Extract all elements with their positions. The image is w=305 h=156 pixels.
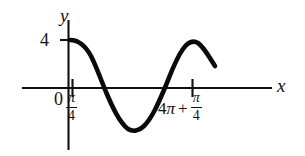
- x-axis-label: x: [277, 76, 285, 95]
- coefficient-4: 4: [158, 100, 167, 117]
- x-tick-label-4pi-plus-pi-over-4: 4π+ π 4: [158, 92, 202, 124]
- fraction-numerator: π: [191, 91, 202, 106]
- plus-operator: +: [175, 100, 191, 117]
- figure-canvas: [0, 0, 305, 156]
- fraction-numerator: π: [66, 91, 77, 106]
- pi-symbol: π: [167, 100, 176, 117]
- y-axis-label: y: [60, 6, 68, 25]
- y-tick-label-4: 4: [40, 31, 49, 49]
- origin-label: 0: [54, 90, 63, 108]
- fraction-pi-over-4-second: π 4: [191, 91, 202, 123]
- math-figure: y x 4 0 π 4 4π+ π 4: [0, 0, 305, 156]
- fraction-denominator: 4: [66, 109, 77, 124]
- x-tick-label-pi-over-4: π 4: [66, 92, 77, 124]
- fraction-pi-over-4: π 4: [66, 91, 77, 123]
- fraction-denominator: 4: [191, 109, 202, 124]
